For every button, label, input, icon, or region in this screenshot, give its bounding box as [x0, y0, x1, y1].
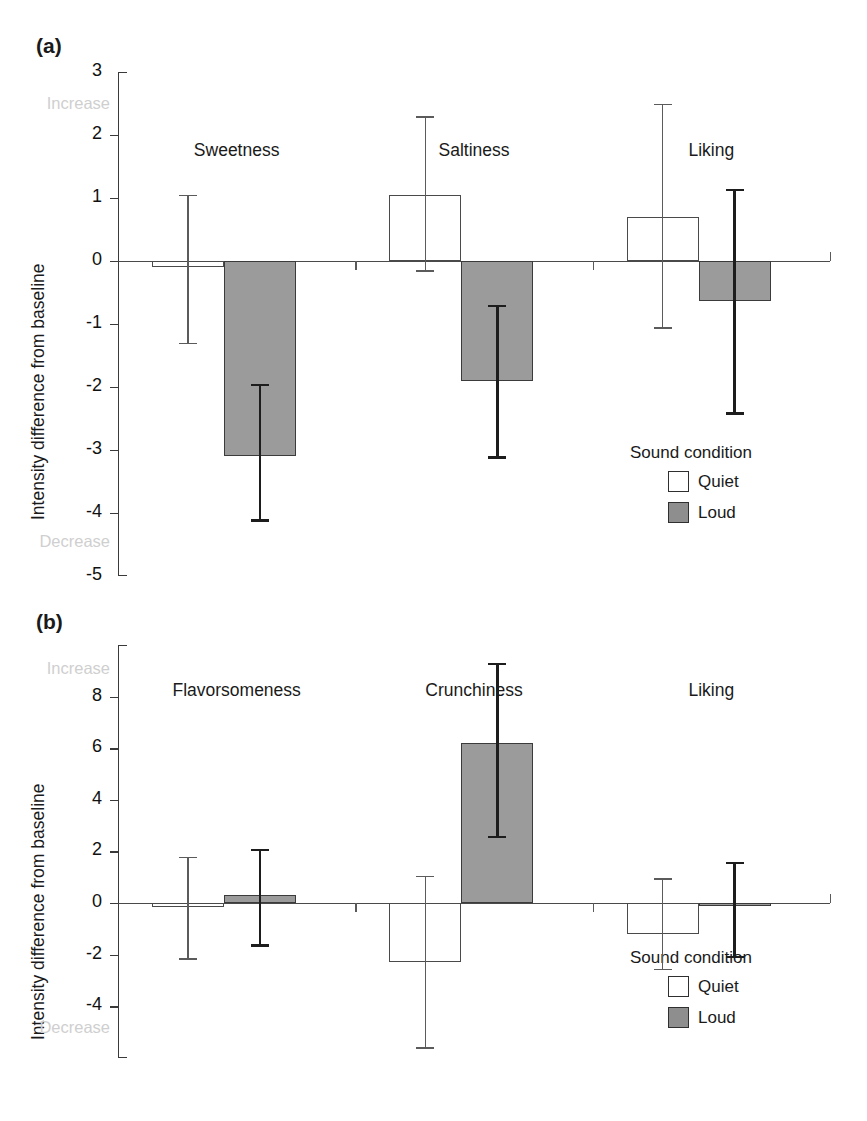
legend-swatch-quiet	[668, 976, 689, 997]
error-whisker	[187, 857, 188, 959]
panel-b: (b) Intensity difference from baseline 8…	[0, 580, 867, 1085]
legend-title: Sound condition	[630, 443, 752, 463]
axis-decrease-label: Decrease	[0, 532, 110, 551]
error-cap-lower	[416, 270, 434, 272]
legend-item-quiet[interactable]: Quiet	[668, 976, 739, 997]
error-cap-lower	[179, 958, 197, 960]
y-axis-tick	[110, 135, 119, 136]
y-axis-tick	[110, 697, 119, 698]
error-whisker	[496, 663, 498, 836]
y-axis-tick	[110, 513, 119, 514]
error-cap-upper	[726, 189, 744, 191]
error-cap-upper	[251, 849, 269, 851]
y-axis-tick-label: -2	[56, 375, 102, 396]
group-label: Sweetness	[127, 140, 347, 161]
error-whisker	[425, 116, 426, 270]
x-axis-right-cap	[830, 252, 831, 261]
group-label: Liking	[601, 680, 821, 701]
y-axis-tick-label: 2	[56, 123, 102, 144]
error-cap-lower	[726, 412, 744, 414]
y-axis-tick	[110, 1006, 119, 1007]
y-axis-tick-label: 3	[56, 60, 102, 81]
y-axis-tick	[110, 450, 119, 451]
y-axis-tick-label: -2	[56, 943, 102, 964]
x-axis-tick	[355, 261, 356, 270]
legend-swatch-loud	[668, 1007, 689, 1028]
axis-increase-label: Increase	[0, 659, 110, 678]
x-axis-tick	[593, 903, 594, 912]
x-axis-tick	[355, 903, 356, 912]
panel-a-letter: (a)	[36, 34, 62, 58]
legend-item-loud[interactable]: Loud	[668, 1007, 736, 1028]
legend-label-quiet: Quiet	[698, 977, 739, 997]
y-axis-tick-label: -4	[56, 994, 102, 1015]
group-label: Crunchiness	[364, 680, 584, 701]
error-whisker	[496, 305, 498, 456]
error-cap-upper	[726, 862, 744, 864]
error-cap-upper	[654, 878, 672, 880]
y-axis-tick-label: -3	[56, 438, 102, 459]
error-cap-upper	[251, 384, 269, 386]
x-axis-right-cap	[830, 894, 831, 903]
y-axis-tick	[110, 851, 119, 852]
error-cap-lower	[654, 969, 672, 971]
error-cap-upper	[488, 663, 506, 665]
y-axis-tick	[110, 955, 119, 956]
error-whisker	[662, 104, 663, 328]
y-axis-tick	[110, 748, 119, 749]
error-whisker	[425, 876, 426, 1048]
error-cap-lower	[726, 956, 744, 958]
error-cap-lower	[416, 1047, 434, 1049]
error-cap-lower	[654, 327, 672, 329]
error-cap-lower	[251, 944, 269, 946]
error-cap-upper	[654, 104, 672, 106]
y-axis-top-cap	[118, 645, 127, 646]
legend-swatch-loud	[668, 502, 689, 523]
group-label: Liking	[601, 140, 821, 161]
panel-a: (a) Intensity difference from baseline 3…	[0, 0, 867, 580]
panel-b-y-axis-title: Intensity difference from baseline	[28, 784, 49, 1040]
error-cap-upper	[416, 876, 434, 878]
error-cap-lower	[251, 519, 269, 521]
error-cap-lower	[488, 836, 506, 838]
error-whisker	[259, 384, 261, 519]
error-cap-upper	[416, 116, 434, 118]
group-label: Flavorsomeness	[127, 680, 347, 701]
error-whisker	[733, 189, 735, 413]
y-axis-tick-label: 1	[56, 186, 102, 207]
figure-canvas: (a) Intensity difference from baseline 3…	[0, 0, 867, 1121]
y-axis-tick-label: 0	[56, 249, 102, 270]
y-axis-tick-label: 0	[56, 891, 102, 912]
legend-label-loud: Loud	[698, 1008, 736, 1028]
legend-item-quiet[interactable]: Quiet	[668, 471, 739, 492]
group-label: Saltiness	[364, 140, 584, 161]
error-cap-upper	[179, 857, 197, 859]
error-cap-lower	[488, 456, 506, 458]
y-axis-tick-label: -4	[56, 501, 102, 522]
y-axis-bottom-cap	[118, 1057, 127, 1058]
y-axis-tick-label: -1	[56, 312, 102, 333]
legend-label-quiet: Quiet	[698, 472, 739, 492]
error-whisker	[187, 195, 188, 343]
x-axis-tick	[593, 261, 594, 270]
y-axis-tick	[110, 324, 119, 325]
error-whisker	[733, 862, 735, 956]
y-axis-tick-label: 4	[56, 788, 102, 809]
panel-b-letter: (b)	[36, 610, 63, 634]
y-axis-tick	[110, 198, 119, 199]
legend-item-loud[interactable]: Loud	[668, 502, 736, 523]
y-axis-tick-label: 8	[56, 685, 102, 706]
y-axis-top-cap	[118, 72, 127, 73]
legend-swatch-quiet	[668, 471, 689, 492]
error-cap-upper	[488, 305, 506, 307]
error-cap-upper	[179, 195, 197, 197]
error-cap-lower	[179, 343, 197, 345]
y-axis-tick	[110, 800, 119, 801]
axis-increase-label: Increase	[0, 94, 110, 113]
error-whisker	[259, 849, 261, 944]
panel-a-y-axis-title: Intensity difference from baseline	[28, 264, 49, 520]
legend-label-loud: Loud	[698, 503, 736, 523]
y-axis-bottom-cap	[118, 575, 127, 576]
y-axis-tick-label: 2	[56, 839, 102, 860]
axis-decrease-label: Decrease	[0, 1018, 110, 1037]
